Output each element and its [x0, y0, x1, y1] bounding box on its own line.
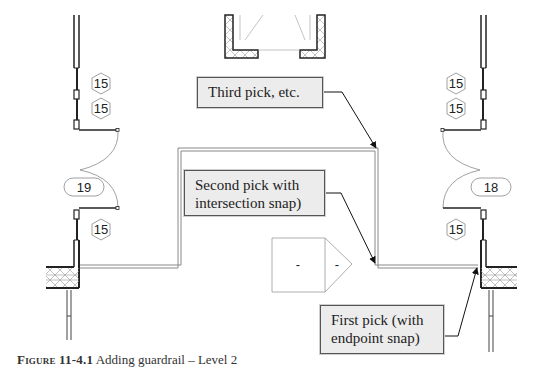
leader-lines — [322, 92, 477, 336]
callout-first-pick: First pick (with endpoint snap) — [320, 305, 444, 354]
svg-text:15: 15 — [94, 76, 108, 91]
room-tag: - - — [272, 238, 352, 292]
callout-third-pick: Third pick, etc. — [197, 77, 323, 108]
window-tag-right-mid: 15 — [447, 98, 465, 119]
callout-second-pick-line1: Second pick with — [195, 176, 314, 194]
svg-text:15: 15 — [449, 222, 463, 237]
door-tag-left: 19 — [64, 178, 104, 196]
window-tag-right-top: 15 — [447, 73, 465, 94]
window-tag-right-bottom: 15 — [447, 219, 465, 240]
svg-text:19: 19 — [77, 180, 91, 195]
callout-first-pick-line1: First pick (with — [331, 311, 433, 329]
svg-text:18: 18 — [484, 180, 498, 195]
room-tag-right-value: - — [335, 257, 339, 272]
svg-text:15: 15 — [449, 101, 463, 116]
door-tag-right: 18 — [471, 178, 511, 196]
callout-first-pick-line2: endpoint snap) — [331, 329, 433, 347]
svg-text:15: 15 — [449, 76, 463, 91]
window-tag-left-mid: 15 — [92, 98, 110, 119]
callout-third-pick-text: Third pick, etc. — [208, 84, 300, 100]
svg-text:15: 15 — [94, 222, 108, 237]
figure-label: Figure 11-4.1 — [17, 352, 93, 367]
window-tag-left-top: 15 — [92, 73, 110, 94]
svg-text:15: 15 — [94, 101, 108, 116]
figure-caption-text: Adding guardrail – Level 2 — [93, 352, 237, 367]
left-wall — [46, 15, 119, 340]
callout-second-pick: Second pick with intersection snap) — [184, 170, 325, 216]
window-tag-left-bottom: 15 — [92, 219, 110, 240]
callout-second-pick-line2: intersection snap) — [195, 194, 314, 212]
figure-caption: Figure 11-4.1 Adding guardrail – Level 2 — [17, 352, 237, 368]
top-shaft — [225, 15, 325, 58]
room-tag-left-value: - — [296, 257, 300, 272]
